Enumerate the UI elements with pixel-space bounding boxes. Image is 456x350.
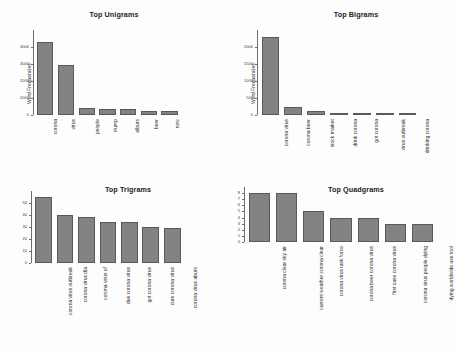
bar[interactable]	[35, 197, 52, 263]
bar-column[interactable]	[382, 187, 409, 242]
plot-area-unigrams: 01000200030004000coronaviruspeopletrumpa…	[33, 30, 178, 115]
bar[interactable]	[262, 37, 280, 115]
y-axis-tick-label: 3	[226, 222, 240, 226]
bar[interactable]	[99, 109, 115, 115]
y-axis-tick-label: 1000	[239, 79, 253, 83]
bar-column[interactable]	[97, 30, 118, 115]
x-axis-label: first case corona virus	[392, 246, 397, 295]
x-axis-label: dying worldwide use tool	[450, 246, 455, 300]
bar-column[interactable]	[54, 191, 75, 263]
bar-column[interactable]	[373, 30, 396, 115]
chart-title-bigrams: Top Bigrams	[228, 10, 456, 19]
x-axis-label: alburs	[135, 119, 140, 133]
bar-column[interactable]	[33, 191, 54, 263]
bar-column[interactable]	[56, 30, 77, 115]
x-axis-label: got corona virus	[147, 267, 152, 303]
bar[interactable]	[303, 211, 324, 242]
bar-column[interactable]	[259, 30, 282, 115]
bar-column[interactable]	[305, 30, 328, 115]
bar[interactable]	[249, 193, 270, 242]
plot-area-bigrams: 0500100015002000corona viruscorona beers…	[257, 30, 417, 115]
x-axis-label: stock market	[330, 119, 335, 147]
y-axis-tick-label: 1	[226, 234, 240, 238]
y-axis-tick	[255, 64, 258, 65]
y-axis-tick	[31, 81, 34, 82]
bar[interactable]	[399, 113, 417, 115]
x-axis-label: beer	[154, 119, 159, 129]
bar[interactable]	[412, 224, 433, 242]
y-axis-tick	[255, 81, 258, 82]
y-axis-tick-label: 30	[13, 225, 27, 229]
y-axis-tick	[29, 227, 32, 228]
bar[interactable]	[164, 228, 181, 263]
plot-area-trigrams: 01020304050corona virus outbreakcorona v…	[31, 191, 181, 263]
bar[interactable]	[276, 193, 297, 242]
x-axis-label: due corona virus	[126, 267, 131, 304]
y-axis-tick-label: 8	[226, 191, 240, 195]
bar-column[interactable]	[246, 187, 273, 242]
y-axis-tick	[31, 115, 34, 116]
bar[interactable]	[58, 65, 74, 115]
bar[interactable]	[100, 222, 117, 263]
bar[interactable]	[161, 111, 177, 115]
bar[interactable]	[307, 111, 325, 115]
y-axis-tick-label: 5	[226, 209, 240, 213]
y-axis-tick-label: 2000	[239, 45, 253, 49]
bar-column[interactable]	[396, 30, 419, 115]
y-axis-tick	[29, 263, 32, 264]
bar-column[interactable]	[162, 191, 183, 263]
chart-title-unigrams: Top Unigrams	[0, 10, 262, 19]
bar[interactable]	[120, 109, 136, 115]
y-axis-tick	[242, 218, 245, 219]
x-axis-label: current weather corona clear	[319, 246, 324, 310]
bar-column[interactable]	[159, 30, 180, 115]
bar-column[interactable]	[355, 187, 382, 242]
bar[interactable]	[284, 107, 302, 116]
bar[interactable]	[141, 111, 157, 115]
y-axis-tick	[29, 215, 32, 216]
y-axis-tick-label: 500	[239, 96, 253, 100]
bar-column[interactable]	[35, 30, 56, 115]
y-axis-tick	[29, 251, 32, 252]
bar-column[interactable]	[328, 30, 351, 115]
y-axis-tick	[242, 236, 245, 237]
bar-column[interactable]	[119, 191, 140, 263]
x-axis-label: cure corona virus	[170, 267, 175, 305]
bar[interactable]	[142, 227, 159, 263]
bar-column[interactable]	[300, 187, 327, 242]
x-axis-label: virus	[71, 119, 76, 130]
x-axis-label: corona virus uf	[103, 267, 108, 300]
bar-column[interactable]	[350, 30, 373, 115]
bar-column[interactable]	[409, 187, 436, 242]
x-axis-label: corona beer	[307, 119, 312, 146]
bar[interactable]	[353, 113, 371, 115]
x-axis-label: corona virus	[284, 119, 289, 146]
bar[interactable]	[376, 113, 394, 115]
bar[interactable]	[330, 218, 351, 242]
bar[interactable]	[385, 224, 406, 242]
bar-column[interactable]	[327, 187, 354, 242]
x-axis-label: corona virus aburs	[193, 267, 198, 308]
bar-column[interactable]	[139, 30, 160, 115]
bar-column[interactable]	[282, 30, 305, 115]
bar[interactable]	[37, 42, 53, 115]
y-axis-line	[257, 30, 258, 115]
bar-column[interactable]	[76, 30, 97, 115]
bar[interactable]	[79, 108, 95, 115]
bar[interactable]	[57, 215, 74, 263]
y-axis-tick-label: 2000	[15, 79, 29, 83]
bar[interactable]	[358, 218, 379, 242]
bar-column[interactable]	[97, 191, 118, 263]
y-axis-tick-label: 0	[226, 240, 240, 244]
bar[interactable]	[330, 113, 348, 115]
bar[interactable]	[121, 222, 138, 263]
bar-column[interactable]	[140, 191, 161, 263]
y-axis-tick	[242, 205, 245, 206]
bar-column[interactable]	[76, 191, 97, 263]
y-axis-tick-label: 20	[13, 237, 27, 241]
bar-column[interactable]	[273, 187, 300, 242]
x-axis-label: now	[174, 119, 179, 128]
y-axis-tick-label: 40	[13, 213, 27, 217]
bar[interactable]	[78, 217, 95, 263]
bar-column[interactable]	[118, 30, 139, 115]
